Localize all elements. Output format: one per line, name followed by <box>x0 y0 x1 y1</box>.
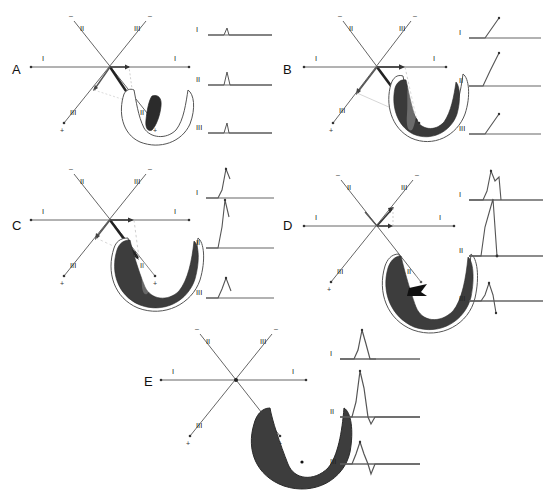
ecg-C-lead-III-peak <box>225 277 227 279</box>
lead-III-bottom-label: III <box>196 421 202 430</box>
lead-III-neg-sign: – <box>148 12 152 19</box>
ecg-B-lead-I-label: I <box>459 28 461 37</box>
lead-I-left-label: I <box>315 54 317 63</box>
panel-D: D – – + + I I II III II III <box>275 150 549 320</box>
lead-I-pos-dot <box>453 225 456 228</box>
activation-highlight-C <box>142 244 155 294</box>
activation-highlight-D <box>415 260 428 308</box>
ecg-C-lead-II-label: II <box>196 238 200 247</box>
panel-A: A – – + + I I II III II III <box>0 0 275 150</box>
lead-III-bottom-label: III <box>70 108 76 117</box>
ecg-E-lead-III-peak <box>359 441 361 443</box>
ecg-E-lead-II-label: II <box>330 407 334 416</box>
lead-III-neg-dot <box>332 122 335 125</box>
panel-D-ecg: I II III <box>459 155 547 315</box>
lead-I-right-label: I <box>292 367 294 376</box>
projection-I-D-arrow <box>388 224 393 229</box>
lead-I-neg-dot <box>30 66 33 69</box>
panel-D-letter: D <box>283 218 293 233</box>
lead-III-pos-sign: + <box>329 127 333 134</box>
ecg-D-lead-II-trace <box>469 199 497 256</box>
lead-III-bottom-label: III <box>70 261 76 270</box>
lead-II-top-label: II <box>80 177 84 186</box>
panel-A-heart <box>116 86 206 148</box>
ecg-C-lead-I-label: I <box>196 188 198 197</box>
ecg-D-lead-I-peak <box>490 170 492 172</box>
panel-B-ecg: I II III <box>459 5 543 145</box>
lead-III-top-label: III <box>401 183 407 192</box>
ecg-C-lead-III-label: III <box>196 288 202 297</box>
lead-I-neg-dot <box>303 225 306 228</box>
lead-III-pos-sign: + <box>186 440 190 447</box>
lead-I-left-label: I <box>42 207 44 216</box>
lead-III-neg-sign: – <box>274 325 278 332</box>
activated-region-A <box>146 95 161 130</box>
ecg-E-lead-I-label: I <box>330 349 332 358</box>
lead-I-right-label: I <box>174 54 176 63</box>
panel-B-letter: B <box>283 62 292 77</box>
ecg-E-lead-I-peak <box>361 329 363 331</box>
lead-III-neg-sign: – <box>415 171 419 178</box>
lead-III-top-label: III <box>134 24 140 33</box>
lead-II-neg-sign: – <box>69 12 73 19</box>
ecg-D-lead-II-label: II <box>459 246 463 255</box>
panel-E-ecg: I II III <box>330 314 426 474</box>
lead-III-top-label: III <box>260 337 266 346</box>
ecg-B-lead-III-trace <box>469 114 499 134</box>
lead-III-bottom-label: III <box>337 267 343 276</box>
lead-II-top-label: II <box>347 183 351 192</box>
ecg-C-lead-II-peak <box>224 199 226 201</box>
ecg-D-lead-III-nadir <box>495 312 497 314</box>
lead-III-neg-dot <box>63 122 66 125</box>
activation-center-E <box>300 460 303 463</box>
ecg-B-lead-II-label: II <box>459 76 463 85</box>
lead-I-right-label: I <box>439 213 441 222</box>
lead-I-neg-dot <box>160 379 163 382</box>
lead-I-pos-dot <box>188 66 191 69</box>
panel-E: E – – + + I I II III II III <box>130 312 430 480</box>
lead-III-neg-dot <box>189 435 192 438</box>
axes-origin-E <box>234 378 238 382</box>
lead-I-right-label: I <box>174 207 176 216</box>
ecg-D-lead-III-trace <box>469 283 496 313</box>
lead-III-pos-sign: + <box>60 280 64 287</box>
lead-III-neg-dot <box>63 275 66 278</box>
lead-I-left-label: I <box>315 213 317 222</box>
projection-III-D <box>365 212 377 226</box>
lead-II-top-label: II <box>349 24 353 33</box>
ecg-B-lead-II-trace <box>469 53 499 86</box>
lead-II-neg-sign: – <box>69 165 73 172</box>
panel-B: B – – + + I I II III II III <box>275 0 549 150</box>
lead-I-left-label: I <box>42 54 44 63</box>
ecg-B-lead-I-endpoint <box>498 17 500 19</box>
panel-C-letter: C <box>12 218 22 233</box>
lead-II-neg-sign: – <box>195 325 199 332</box>
ecg-A-lead-III-trace <box>208 123 272 133</box>
ecg-E-lead-III-trace <box>340 442 420 474</box>
lead-I-right-label: I <box>433 54 435 63</box>
lead-III-bottom-label: III <box>339 106 345 115</box>
lead-III-neg-dot <box>330 281 333 284</box>
ecg-D-lead-I-label: I <box>459 190 461 199</box>
lead-III-pos-sign: + <box>327 286 331 293</box>
lead-III-top-label: III <box>134 177 140 186</box>
lead-II-top-label: II <box>206 337 210 346</box>
ecg-C-lead-III-trace <box>206 278 231 298</box>
ecg-D-lead-II-nadir <box>496 255 499 258</box>
ecg-A-lead-II-label: II <box>196 75 200 84</box>
lead-III-pos-sign: + <box>60 127 64 134</box>
ecg-B-lead-III-endpoint <box>498 113 500 115</box>
ecg-E-lead-II-trace <box>340 371 420 424</box>
lead-I-pos-dot <box>188 219 191 222</box>
ecg-A-lead-II-trace <box>208 72 272 85</box>
lead-II-neg-sign: – <box>338 12 342 19</box>
lead-I-pos-dot <box>305 379 308 382</box>
ecg-C-lead-II-trace <box>206 200 229 248</box>
ecg-A-lead-III-label: III <box>196 123 202 132</box>
panel-C-ecg: I II III <box>196 155 276 310</box>
ecg-D-lead-I-trace <box>469 171 501 200</box>
ecg-B-lead-II-endpoint <box>498 52 500 54</box>
ecg-E-lead-III-label: III <box>330 457 336 466</box>
panel-C: C – – + + I I II III II III <box>0 150 275 315</box>
